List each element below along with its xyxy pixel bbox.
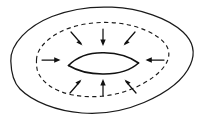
- arrow-top-left: [71, 32, 83, 46]
- arrow-right-head: [146, 57, 152, 62]
- arrow-bottom-right-head: [125, 80, 131, 85]
- arrow-bottom-center: [100, 79, 105, 96]
- arrow-right: [146, 57, 165, 62]
- arrow-field-group: [42, 29, 164, 96]
- arrow-left: [42, 57, 61, 62]
- arrow-bottom-center-head: [100, 79, 105, 85]
- arrow-top-center: [100, 29, 105, 46]
- arrow-top-right: [124, 32, 136, 46]
- central-hole-group: [69, 53, 139, 74]
- arrow-bottom-left-head: [75, 80, 81, 85]
- outer-boundary-ellipse: [11, 7, 193, 113]
- outer-boundary-group: [11, 7, 193, 113]
- lens-arc-upper: [69, 53, 139, 66]
- arrow-top-center-head: [100, 40, 105, 46]
- lens-arc-lower: [69, 63, 139, 74]
- arrow-top-right-head: [124, 40, 130, 45]
- arrow-left-head: [54, 57, 60, 62]
- torus-diagram: [0, 0, 205, 128]
- arrow-top-left-head: [76, 40, 82, 45]
- arrow-bottom-right: [125, 80, 137, 94]
- arrow-bottom-left: [70, 80, 82, 94]
- figure-container: [0, 0, 205, 128]
